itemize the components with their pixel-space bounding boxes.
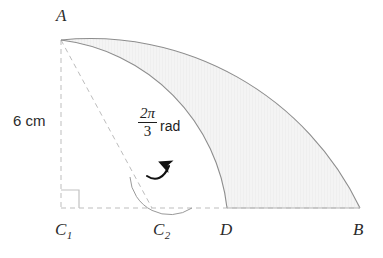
point-label-b: B [353,221,363,238]
angle-unit: rad [160,119,180,133]
point-label-a: A [56,7,66,24]
point-label-c2: C2 [153,221,170,238]
angle-measure-label: 2π 3 rad [138,106,180,139]
side-length-label: 6 cm [13,113,46,128]
angle-arc [130,177,192,215]
right-angle-marker [61,190,79,208]
angle-numerator: 2π [138,106,157,122]
angle-denominator: 3 [142,123,154,139]
angle-direction-arrow [147,166,169,179]
angle-fraction: 2π 3 [138,106,157,139]
point-label-d: D [220,221,232,238]
point-label-c1: C1 [55,221,72,238]
